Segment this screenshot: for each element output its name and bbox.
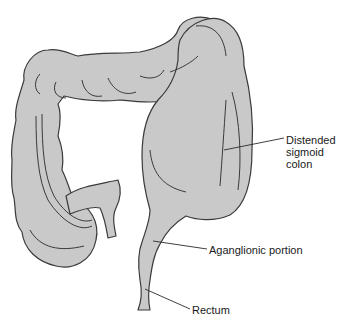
- sigmoid-label-line2: sigmoid: [286, 146, 336, 158]
- aganglionic-leader-line: [153, 241, 207, 249]
- sigmoid-label: Distended sigmoid colon: [286, 134, 336, 170]
- sigmoid-label-line1: Distended: [286, 134, 336, 146]
- sigmoid-label-line3: colon: [286, 158, 336, 170]
- rectum-leader-line: [145, 289, 190, 309]
- rectum-label: Rectum: [192, 304, 230, 316]
- colon-diagram: Distended sigmoid colon Aganglionic port…: [0, 0, 340, 321]
- aganglionic-label: Aganglionic portion: [209, 244, 303, 256]
